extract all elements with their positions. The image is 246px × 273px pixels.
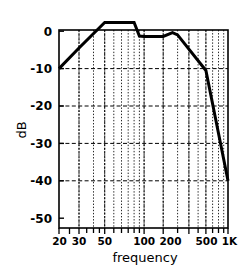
- y-tick-label-0: 0: [44, 25, 52, 39]
- y-tick-label-1: -10: [30, 62, 52, 76]
- frequency-response-chart: 0 -10 -20 -30 -40 -50 20 30 50 100 200 5…: [0, 0, 246, 273]
- x-axis-title: frequency: [112, 250, 178, 265]
- x-axis-ticks: [59, 228, 228, 234]
- x-tick-label-200: 200: [160, 235, 182, 247]
- x-tick-label-500: 500: [196, 235, 218, 247]
- x-tick-label-20: 20: [52, 235, 67, 247]
- y-tick-label-5: -50: [30, 212, 52, 226]
- chart-figure: 0 -10 -20 -30 -40 -50 20 30 50 100 200 5…: [0, 0, 246, 273]
- y-tick-label-2: -20: [30, 99, 52, 113]
- x-tick-label-100: 100: [133, 235, 155, 247]
- x-tick-label-30: 30: [72, 235, 87, 247]
- y-tick-label-3: -30: [30, 137, 52, 151]
- y-axis-title: dB: [14, 121, 29, 138]
- x-tick-label-50: 50: [97, 235, 112, 247]
- y-tick-label-4: -40: [30, 174, 52, 188]
- plot-background: [59, 30, 228, 228]
- x-tick-label-1k: 1K: [222, 235, 238, 247]
